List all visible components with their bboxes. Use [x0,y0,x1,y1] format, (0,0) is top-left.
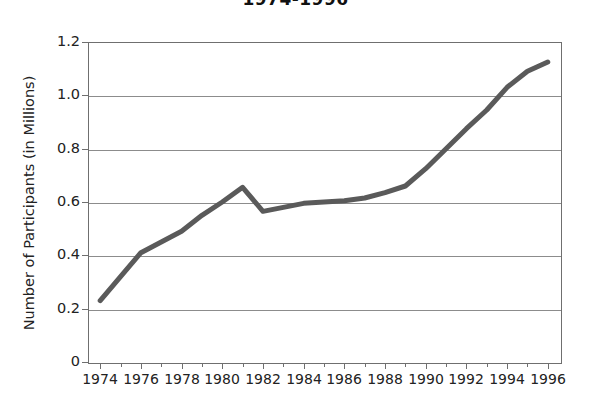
y-axis-tick-label: 1.0 [34,87,80,101]
x-axis-major-tick [182,363,183,369]
x-axis-major-tick [263,363,264,369]
y-axis-tick-label: 0 [34,354,80,368]
x-axis-minor-tick [283,363,284,367]
x-axis-minor-tick [365,363,366,367]
series-polyline [100,62,548,301]
x-axis-major-tick [141,363,142,369]
x-axis-minor-tick [405,363,406,367]
x-axis-major-tick [222,363,223,369]
y-axis-tick-label: 0.4 [34,247,80,261]
data-series-line [88,42,560,362]
x-axis-minor-tick [324,363,325,367]
x-axis-minor-tick [446,363,447,367]
y-axis-tick-label: 0.6 [34,194,80,208]
x-axis-major-tick [548,363,549,369]
x-axis-minor-tick [243,363,244,367]
x-axis-minor-tick [527,363,528,367]
x-axis-major-tick [344,363,345,369]
y-axis-tick-label: 0.8 [34,141,80,155]
x-axis-tick-label: 1996 [521,371,575,387]
x-axis-major-tick [385,363,386,369]
y-axis-tick-label: 1.2 [34,34,80,48]
x-axis-major-tick [466,363,467,369]
chart-figure: 1974-1996 Number of Participants (in Mil… [0,0,591,412]
x-axis-minor-tick [161,363,162,367]
x-axis-major-tick [304,363,305,369]
x-axis-minor-tick [202,363,203,367]
x-axis-major-tick [507,363,508,369]
y-axis-tick-label: 0.2 [34,301,80,315]
x-axis-major-tick [426,363,427,369]
x-axis-major-tick [100,363,101,369]
x-axis-minor-tick [487,363,488,367]
x-axis-minor-tick [121,363,122,367]
